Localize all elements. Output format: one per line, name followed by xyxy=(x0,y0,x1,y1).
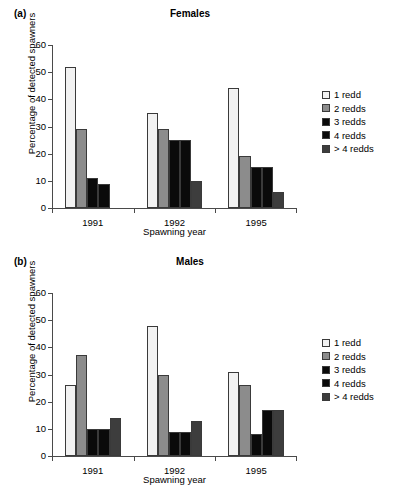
y-tick-mark xyxy=(48,402,52,403)
bar xyxy=(180,432,191,456)
panel-males: (b) Males Percentage of detected spawner… xyxy=(0,248,395,495)
legend-item: 2 redds xyxy=(322,102,374,115)
legend-item: 3 redds xyxy=(322,363,374,376)
y-tick-mark xyxy=(48,375,52,376)
legend-label: 4 redds xyxy=(334,130,366,141)
legend-label: > 4 redds xyxy=(334,143,374,154)
bar xyxy=(191,181,202,208)
legend-swatch xyxy=(322,393,330,401)
y-tick-label: 30 xyxy=(35,120,46,133)
y-tick-label: 50 xyxy=(35,313,46,326)
legend-label: 4 redds xyxy=(334,378,366,389)
x-axis-line xyxy=(52,456,297,457)
y-tick-label: 30 xyxy=(35,368,46,381)
bar xyxy=(76,355,87,456)
legend-item: > 4 redds xyxy=(322,390,374,403)
bar xyxy=(228,372,239,456)
y-tick-label: 60 xyxy=(35,286,46,299)
bar xyxy=(98,184,109,208)
y-axis-line xyxy=(52,293,53,456)
bar xyxy=(87,429,98,456)
legend-item: 4 redds xyxy=(322,129,374,142)
plot-area-females: 0102030405060 199119921995 xyxy=(52,45,297,208)
legend-label: 3 redds xyxy=(334,364,366,375)
y-tick-label: 50 xyxy=(35,65,46,78)
y-tick-mark xyxy=(48,127,52,128)
x-tick-mark xyxy=(52,209,53,213)
legend-swatch xyxy=(322,145,330,153)
y-tick-mark xyxy=(48,429,52,430)
x-tick-mark xyxy=(215,457,216,461)
y-tick-label: 0 xyxy=(41,449,46,462)
y-tick-mark xyxy=(48,347,52,348)
bar xyxy=(239,385,250,456)
y-axis-line xyxy=(52,45,53,208)
bar xyxy=(87,178,98,208)
x-tick-label: 1992 xyxy=(134,465,216,476)
legend-label: 1 redd xyxy=(334,89,361,100)
panel-title-males: Males xyxy=(120,256,260,267)
bar xyxy=(228,88,239,208)
x-tick-label: 1991 xyxy=(52,217,134,228)
bar xyxy=(273,192,284,208)
y-tick-label: 40 xyxy=(35,92,46,105)
legend-item: 4 redds xyxy=(322,377,374,390)
x-tick-mark xyxy=(296,457,297,461)
legend-swatch xyxy=(322,118,330,126)
y-tick-label: 10 xyxy=(35,174,46,187)
panel-title-females: Females xyxy=(120,8,260,19)
bar xyxy=(180,140,191,208)
y-tick-mark xyxy=(48,181,52,182)
x-tick-mark xyxy=(52,457,53,461)
plot-area-males: 0102030405060 199119921995 xyxy=(52,293,297,456)
x-tick-label: 1995 xyxy=(215,217,297,228)
x-tick-label: 1995 xyxy=(215,465,297,476)
legend-swatch xyxy=(322,91,330,99)
legend-swatch xyxy=(322,104,330,112)
legend-label: 3 redds xyxy=(334,116,366,127)
legend-label: > 4 redds xyxy=(334,391,374,402)
bar xyxy=(65,385,76,456)
y-tick-label: 60 xyxy=(35,38,46,51)
legend-item: 2 redds xyxy=(322,350,374,363)
legend-swatch xyxy=(322,379,330,387)
y-tick-label: 0 xyxy=(41,201,46,214)
legend-swatch xyxy=(322,366,330,374)
y-tick-mark xyxy=(48,154,52,155)
legend-item: 1 redd xyxy=(322,88,374,101)
bar xyxy=(98,429,109,456)
x-tick-mark xyxy=(215,209,216,213)
bar xyxy=(65,67,76,208)
bar xyxy=(147,113,158,208)
bar xyxy=(251,434,262,456)
panel-label-a: (a) xyxy=(14,8,26,19)
y-tick-label: 40 xyxy=(35,340,46,353)
x-axis-line xyxy=(52,208,297,209)
bar xyxy=(169,140,180,208)
y-tick-label: 20 xyxy=(35,395,46,408)
y-tick-label: 10 xyxy=(35,422,46,435)
bar xyxy=(273,410,284,456)
y-tick-mark xyxy=(48,320,52,321)
bar xyxy=(158,375,169,457)
legend-item: 1 redd xyxy=(322,336,374,349)
bar xyxy=(76,129,87,208)
legend-swatch xyxy=(322,352,330,360)
legend-swatch xyxy=(322,131,330,139)
bar xyxy=(191,421,202,456)
y-tick-label: 20 xyxy=(35,147,46,160)
bar xyxy=(251,167,262,208)
x-tick-mark xyxy=(134,457,135,461)
legend-females: 1 redd2 redds3 redds4 redds> 4 redds xyxy=(322,88,374,156)
bar xyxy=(169,432,180,456)
legend-swatch xyxy=(322,339,330,347)
legend-item: > 4 redds xyxy=(322,142,374,155)
y-tick-mark xyxy=(48,99,52,100)
bar xyxy=(147,326,158,456)
legend-label: 1 redd xyxy=(334,337,361,348)
panel-females: (a) Females Percentage of detected spawn… xyxy=(0,0,395,247)
y-tick-mark xyxy=(48,72,52,73)
bar xyxy=(110,418,121,456)
legend-label: 2 redds xyxy=(334,351,366,362)
bar xyxy=(262,167,273,208)
